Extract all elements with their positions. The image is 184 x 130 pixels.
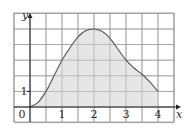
- x-tick-label: 1: [59, 108, 66, 121]
- origin-label: 0: [19, 108, 26, 121]
- x-tick-label: 4: [155, 108, 162, 121]
- y-axis-label: y: [21, 9, 29, 22]
- area-chart: 012341xy: [0, 0, 184, 130]
- x-tick-label: 2: [91, 108, 98, 121]
- y-axis-arrow-icon: [28, 13, 33, 18]
- x-axis-label: x: [176, 108, 183, 121]
- x-tick-label: 3: [123, 108, 130, 121]
- y-tick-label: 1: [21, 85, 28, 98]
